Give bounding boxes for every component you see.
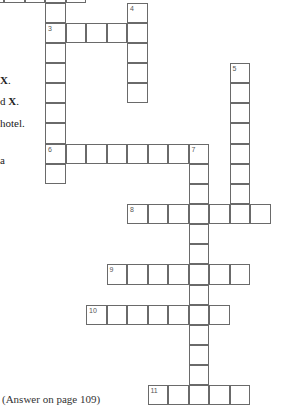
crossword-cell[interactable] (230, 264, 251, 284)
clue-number: 3 (48, 25, 52, 32)
crossword-cell[interactable] (66, 23, 87, 43)
clue-fragment: hotel. (0, 118, 25, 129)
crossword-cell[interactable] (168, 144, 189, 164)
crossword-cell[interactable] (86, 144, 107, 164)
crossword-cell[interactable] (45, 3, 66, 23)
crossword-cell[interactable] (148, 264, 169, 284)
crossword-cell[interactable] (127, 144, 148, 164)
crossword-cell[interactable] (230, 123, 251, 143)
clue-number: 5 (233, 65, 237, 72)
crossword-cell[interactable] (45, 103, 66, 123)
crossword-cell[interactable] (168, 385, 189, 405)
crossword-cell[interactable] (209, 305, 230, 325)
crossword-cell[interactable]: 7 (189, 144, 210, 164)
crossword-cell[interactable] (189, 244, 210, 264)
crossword-cell[interactable]: 10 (86, 305, 107, 325)
crossword-cell[interactable] (189, 184, 210, 204)
crossword-cell[interactable]: 6 (45, 144, 66, 164)
crossword-cell[interactable] (230, 103, 251, 123)
crossword-cell[interactable] (209, 204, 230, 224)
clue-number: 11 (151, 387, 158, 394)
crossword-cell[interactable] (189, 224, 210, 244)
crossword-cell[interactable] (148, 305, 169, 325)
clue-fragment: a (0, 155, 5, 166)
clue-number: 10 (89, 307, 97, 314)
crossword-cell[interactable] (127, 43, 148, 63)
crossword-cell[interactable] (189, 305, 210, 325)
crossword-cell[interactable] (45, 43, 66, 63)
crossword-cell[interactable]: 3 (45, 23, 66, 43)
crossword-cell[interactable]: 11 (148, 385, 169, 405)
crossword-cell[interactable] (230, 184, 251, 204)
crossword-cell[interactable] (189, 365, 210, 385)
crossword-cell[interactable] (189, 345, 210, 365)
clue-number: 4 (130, 5, 134, 12)
crossword-cell[interactable] (230, 144, 251, 164)
crossword-cell[interactable]: 9 (107, 264, 128, 284)
crossword-cell[interactable] (66, 0, 87, 3)
crossword-cell[interactable] (168, 264, 189, 284)
crossword-cell[interactable] (127, 305, 148, 325)
crossword-cell[interactable] (148, 144, 169, 164)
crossword-cell[interactable] (189, 285, 210, 305)
crossword-cell[interactable] (127, 264, 148, 284)
crossword-cell[interactable] (148, 204, 169, 224)
crossword-cell[interactable] (250, 204, 271, 224)
crossword-cell[interactable] (168, 204, 189, 224)
crossword-cell[interactable] (45, 0, 66, 3)
crossword-cell[interactable] (209, 264, 230, 284)
crossword-cell[interactable]: 4 (127, 3, 148, 23)
crossword-cell[interactable] (127, 63, 148, 83)
crossword-cell[interactable] (189, 325, 210, 345)
crossword-cell[interactable] (230, 204, 251, 224)
crossword-cell[interactable] (107, 144, 128, 164)
crossword-cell[interactable] (230, 385, 251, 405)
clue-number: 6 (48, 146, 52, 153)
crossword-cell[interactable]: 8 (127, 204, 148, 224)
crossword-cell[interactable] (168, 305, 189, 325)
crossword-cell[interactable] (86, 23, 107, 43)
crossword-cell[interactable] (189, 164, 210, 184)
crossword-cell[interactable] (127, 23, 148, 43)
crossword-grid: 36457891011 (0, 0, 290, 413)
answer-note: (Answer on page 109) (2, 393, 100, 405)
crossword-cell[interactable] (45, 164, 66, 184)
crossword-cell[interactable] (189, 264, 210, 284)
crossword-cell[interactable] (189, 204, 210, 224)
crossword-cell[interactable] (66, 144, 87, 164)
crossword-cell[interactable] (25, 0, 46, 3)
crossword-cell[interactable] (189, 385, 210, 405)
crossword-cell[interactable] (45, 83, 66, 103)
crossword-cell[interactable] (230, 164, 251, 184)
crossword-cell[interactable] (230, 83, 251, 103)
clue-fragment: d X. (0, 96, 19, 107)
crossword-cell[interactable] (107, 23, 128, 43)
crossword-cell[interactable]: 5 (230, 63, 251, 83)
crossword-cell[interactable] (127, 83, 148, 103)
crossword-cell[interactable] (107, 305, 128, 325)
crossword-cell[interactable] (4, 0, 25, 3)
clue-number: 9 (110, 266, 114, 273)
clue-number: 7 (192, 146, 196, 153)
clue-number: 8 (130, 206, 134, 213)
clue-fragment: X. (0, 75, 11, 86)
crossword-cell[interactable] (209, 385, 230, 405)
crossword-cell[interactable] (45, 123, 66, 143)
crossword-cell[interactable] (45, 63, 66, 83)
